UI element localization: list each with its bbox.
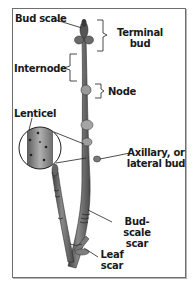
lenticel-magnifier: [19, 126, 86, 170]
label-lenticel: Lenticel: [14, 108, 56, 119]
label-leaf-scar-line1: Leaf: [98, 249, 126, 260]
label-terminal-bud-line2: bud: [114, 38, 166, 49]
label-bud-scale-scar-line2: scar: [112, 238, 162, 249]
label-bud-scale-scar: Bud-scale scar: [112, 216, 162, 249]
label-bud-scale: Bud scale: [15, 13, 67, 24]
label-axillary-bud: Axillary, or lateral bud: [125, 147, 187, 169]
label-internode: Internode: [14, 63, 67, 74]
axillary-bud-shape: [94, 156, 101, 162]
label-leaf-scar: Leaf scar: [98, 249, 126, 271]
label-terminal-bud-line1: Terminal: [114, 27, 166, 38]
label-axillary-line1: Axillary, or: [125, 147, 187, 158]
label-axillary-line2: lateral bud: [125, 158, 187, 169]
main-stem: [68, 38, 90, 268]
side-branch: [52, 172, 74, 262]
label-node: Node: [108, 86, 136, 97]
label-leaf-scar-line2: scar: [98, 260, 126, 271]
label-bud-scale-scar-line1: Bud-scale: [112, 216, 162, 238]
label-terminal-bud: Terminal bud: [114, 27, 166, 49]
node-shape: [81, 85, 91, 95]
